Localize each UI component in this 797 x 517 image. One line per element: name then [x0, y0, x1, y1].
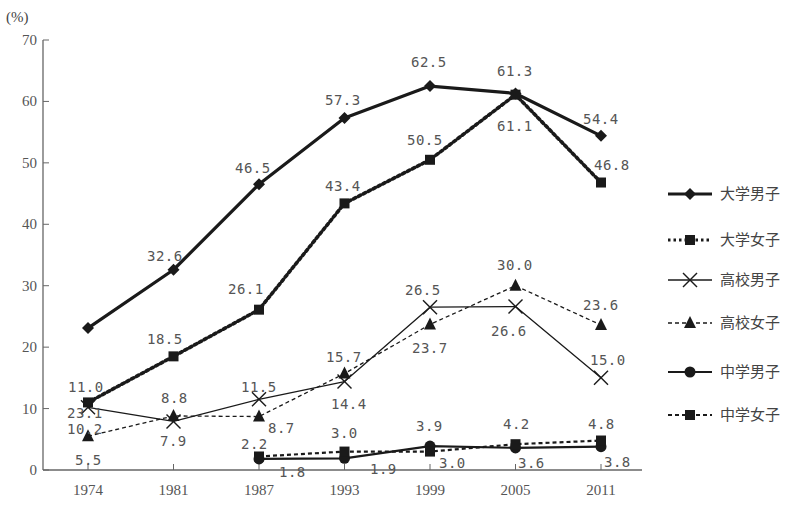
- line-chart: (%) 010203040506070197419811987199319992…: [0, 0, 797, 517]
- triangle-marker: [595, 318, 607, 330]
- data-label: 1.8: [279, 464, 306, 480]
- legend-item: 大学男子: [668, 185, 780, 203]
- square-marker: [340, 447, 350, 457]
- data-label: 46.8: [594, 157, 630, 173]
- data-label: 7.9: [160, 433, 187, 449]
- legend: 大学男子大学女子高校男子高校女子中学男子中学女子: [668, 185, 780, 424]
- square-marker: [425, 447, 435, 457]
- square-icon: [685, 235, 695, 245]
- x-tick-label: 1987: [244, 482, 275, 498]
- data-label: 50.5: [407, 132, 443, 148]
- data-label: 3.0: [439, 455, 466, 471]
- square-marker: [254, 305, 264, 315]
- data-label: 4.8: [588, 416, 615, 432]
- data-label: 26.1: [228, 281, 264, 297]
- square-marker: [511, 90, 521, 100]
- data-label: 54.4: [583, 111, 619, 127]
- data-label: 11.5: [241, 379, 277, 395]
- data-label: 23.7: [412, 340, 448, 356]
- triangle-marker: [424, 317, 436, 329]
- data-label: 23.1: [67, 405, 103, 421]
- y-tick-label: 10: [22, 401, 37, 417]
- x-tick-label: 2011: [586, 482, 615, 498]
- y-tick-label: 30: [22, 278, 37, 294]
- triangle-marker: [510, 279, 522, 291]
- data-label: 61.1: [497, 118, 533, 134]
- triangle-marker: [253, 410, 265, 422]
- triangle-marker: [339, 367, 351, 379]
- data-label: 3.6: [518, 455, 545, 471]
- y-tick-label: 60: [22, 93, 37, 109]
- square-marker: [511, 439, 521, 449]
- data-label: 3.9: [416, 418, 443, 434]
- y-tick-label: 0: [30, 462, 38, 478]
- legend-item: 中学男子: [668, 363, 780, 381]
- data-label: 8.7: [268, 420, 295, 436]
- legend-label: 大学男子: [720, 185, 780, 203]
- diamond-marker: [595, 130, 607, 142]
- triangle-icon: [684, 316, 696, 328]
- data-label: 2.2: [241, 436, 268, 452]
- x-tick-label: 1974: [73, 482, 104, 498]
- square-marker: [596, 436, 606, 446]
- legend-label: 大学女子: [720, 231, 780, 249]
- y-axis-unit-label: (%): [6, 9, 29, 26]
- x-tick-label: 1981: [159, 482, 189, 498]
- data-label: 61.3: [497, 63, 533, 79]
- data-label: 15.7: [326, 349, 362, 365]
- legend-item: 中学女子: [668, 406, 780, 424]
- legend-item: 大学女子: [668, 231, 780, 249]
- data-label: 30.0: [497, 257, 533, 273]
- legend-label: 高校男子: [720, 271, 780, 289]
- y-tick-label: 50: [22, 155, 37, 171]
- square-marker: [596, 178, 606, 188]
- square-marker: [169, 351, 179, 361]
- legend-item: 高校女子: [668, 314, 780, 332]
- data-label: 11.0: [68, 379, 104, 395]
- data-label: 4.2: [503, 416, 530, 432]
- square-marker: [254, 451, 264, 461]
- data-label: 46.5: [235, 160, 271, 176]
- diamond-marker: [424, 80, 436, 92]
- data-label: 26.6: [491, 323, 527, 339]
- diamond-icon: [684, 188, 696, 200]
- y-tick-label: 20: [22, 339, 37, 355]
- x-tick-label: 1999: [415, 482, 445, 498]
- y-tick-label: 70: [22, 32, 37, 48]
- square-marker: [340, 198, 350, 208]
- data-label: 1.9: [370, 461, 397, 477]
- data-label: 5.5: [75, 452, 102, 468]
- data-label: 26.5: [405, 282, 441, 298]
- data-label: 23.6: [583, 297, 619, 313]
- x-tick-label: 2005: [501, 482, 531, 498]
- data-label: 43.4: [325, 178, 361, 194]
- data-label: 18.5: [147, 331, 183, 347]
- data-label: 57.3: [325, 92, 361, 108]
- data-label: 15.0: [590, 352, 626, 368]
- legend-item: 高校男子: [668, 271, 780, 289]
- data-label: 62.5: [411, 54, 447, 70]
- y-tick-label: 40: [22, 216, 37, 232]
- data-label: 8.8: [161, 390, 188, 406]
- square-marker: [425, 155, 435, 165]
- data-label: 3.0: [331, 425, 358, 441]
- legend-label: 中学男子: [720, 363, 780, 381]
- data-label: 32.6: [147, 248, 183, 264]
- data-label: 10.2: [67, 421, 103, 437]
- x-tick-label: 1993: [330, 482, 360, 498]
- square-icon: [685, 410, 695, 420]
- circle-icon: [685, 367, 696, 378]
- triangle-marker: [168, 409, 180, 421]
- data-label: 3.8: [604, 454, 631, 470]
- legend-label: 中学女子: [720, 406, 780, 424]
- data-label: 14.4: [331, 396, 367, 412]
- legend-label: 高校女子: [720, 314, 780, 332]
